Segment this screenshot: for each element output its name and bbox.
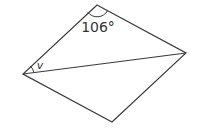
diagram-canvas: 106° v: [0, 0, 199, 136]
diagonal-line: [23, 53, 186, 74]
rhombus-diagram: 106° v: [0, 0, 199, 136]
angle-label-v: v: [37, 59, 44, 72]
angle-label-106: 106°: [81, 19, 115, 35]
angle-arc-left: [30, 66, 34, 73]
